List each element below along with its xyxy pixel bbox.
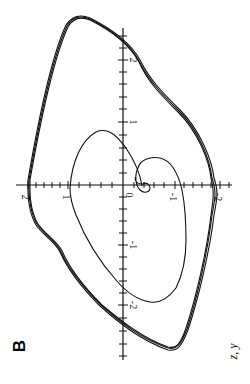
- axis-name-label: z, y: [226, 344, 241, 360]
- v-tick-label-neg2: -2: [128, 301, 138, 309]
- inner-trajectory: [70, 131, 186, 303]
- v-tick-label-neg1: -1: [128, 241, 138, 249]
- panel-label: B: [10, 340, 30, 352]
- h-tick-label-neg2: -2: [213, 193, 223, 201]
- v-tick-label-2: 2: [128, 58, 138, 63]
- h-tick-label-neg1: -1: [168, 193, 178, 201]
- h-tick-label-0: 0: [124, 193, 134, 198]
- v-tick-label-1: 1: [128, 120, 138, 125]
- h-tick-label-2: 2: [20, 195, 30, 200]
- h-tick-label-1: 1: [61, 195, 71, 200]
